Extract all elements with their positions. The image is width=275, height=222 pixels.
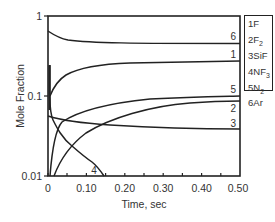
curve-1-f <box>50 61 240 96</box>
y-tick-0.01: 0.01 <box>22 170 43 182</box>
curve-label-5: 5 <box>230 84 236 95</box>
curve-3-sif <box>48 116 240 129</box>
x-tick-0.50: 0.50 <box>228 182 249 194</box>
curve-label-3: 3 <box>230 118 236 129</box>
curve-5-n2 <box>50 96 240 176</box>
curves <box>48 31 240 176</box>
x-tick-0.10: 0.10 <box>76 182 97 194</box>
x-tick-0.40: 0.40 <box>191 182 212 194</box>
legend: 1F 2F2 3SiF 4NF3 5N2 6Ar <box>244 15 273 91</box>
y-axis-title: Mole Fraction <box>14 64 26 128</box>
legend-item-nf3: 4NF3 <box>248 66 272 82</box>
legend-item-n2: 5N2 <box>248 82 272 98</box>
curve-label-2: 2 <box>230 103 236 114</box>
curve-label-1: 1 <box>230 49 236 60</box>
legend-item-ar: 6Ar <box>248 97 272 113</box>
legend-item-f: 1F <box>248 18 272 34</box>
curve-label-6: 6 <box>230 31 236 42</box>
x-axis-title: Time, sec <box>121 198 166 210</box>
x-tick-0.30: 0.30 <box>153 182 174 194</box>
curve-label-4: 4 <box>91 165 97 176</box>
curve-6-ar <box>48 31 240 44</box>
x-tick-0.20: 0.20 <box>115 182 136 194</box>
x-tick-0: 0 <box>45 182 51 194</box>
chart: 1 0.1 0.01 0 0.10 0.20 0.30 0.40 0.50 Ti… <box>0 0 275 222</box>
y-tick-0.1: 0.1 <box>27 90 42 102</box>
legend-item-f2: 2F2 <box>248 34 272 50</box>
y-tick-1: 1 <box>36 10 42 22</box>
legend-item-sif: 3SiF <box>248 50 272 66</box>
